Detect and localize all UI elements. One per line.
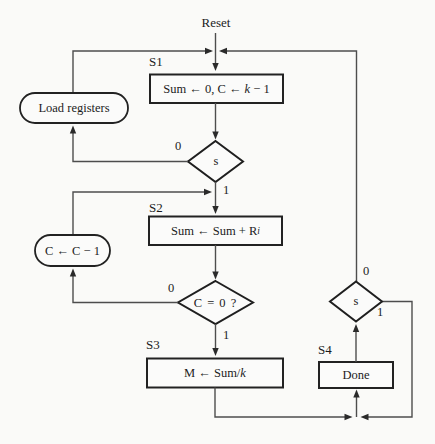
asm-flowchart-figure: Reset S1 Sum ← 0, C ← k − 1 Load registe…: [0, 0, 435, 444]
branch-label-czero-1: 1: [218, 328, 234, 342]
s1-text-post: − 1: [250, 82, 270, 96]
connector-s3-to-junction: [215, 388, 353, 421]
s2-text-sub-i: i: [257, 224, 260, 238]
process-text-s3: M ← Sum/k: [147, 358, 283, 388]
connector-done-to-sright: [353, 324, 359, 362]
action-text-load-registers: Load registers: [20, 93, 128, 123]
connector-s2-to-czero: [212, 245, 218, 280]
connector-junction-to-done: [353, 390, 359, 418]
decision-text-s-top: s: [189, 154, 243, 168]
s1-text-pre: Sum ← 0, C ←: [163, 82, 244, 96]
s2-text-pre: Sum ← Sum + R: [171, 224, 257, 238]
connector-sright1-loop: [361, 302, 413, 421]
process-text-s2: Sum ← Sum + Ri: [149, 216, 282, 245]
state-label-s2: S2: [149, 201, 163, 215]
process-text-s1: Sum ← 0, C ← k − 1: [150, 74, 283, 103]
action-text-decrement-c: C ← C − 1: [35, 235, 110, 266]
branch-label-s-top-0: 0: [170, 139, 186, 153]
process-text-done: Done: [319, 362, 393, 388]
s3-text-pre: M ← Sum/: [184, 366, 240, 380]
branch-label-czero-0: 0: [163, 281, 179, 295]
decision-text-c-zero: C = 0 ?: [178, 295, 253, 310]
reset-label: Reset: [186, 15, 246, 30]
state-label-s1: S1: [149, 55, 163, 69]
branch-label-s-top-1: 1: [218, 183, 234, 197]
state-label-s4: S4: [318, 343, 332, 357]
connector-s1-to-s-decision: [212, 103, 218, 140]
state-label-s3: S3: [146, 338, 160, 352]
connector-reset-entry: [212, 33, 218, 71]
connector-czero0-to-decrement: [70, 269, 178, 303]
s3-text-k: k: [240, 366, 246, 380]
branch-label-s-right-1: 1: [372, 305, 388, 319]
branch-label-s-right-0: 0: [358, 264, 374, 278]
